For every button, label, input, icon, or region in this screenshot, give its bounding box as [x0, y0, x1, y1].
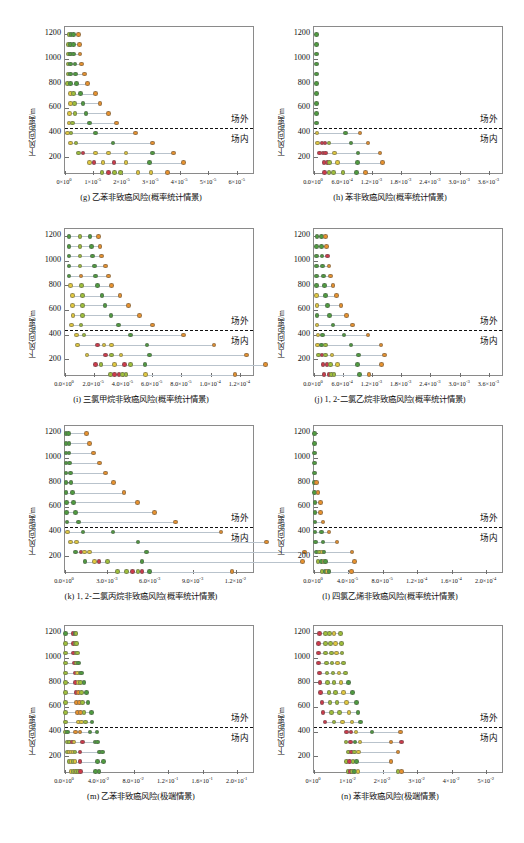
data-point-marker	[109, 313, 114, 318]
y-tick-label: 200	[32, 152, 61, 161]
zone-label-inside: 场内	[480, 132, 498, 144]
data-point-marker	[126, 303, 131, 308]
x-tick-mark	[237, 171, 238, 175]
data-point-marker	[114, 121, 119, 126]
data-point-marker	[349, 141, 354, 146]
y-tick-label: 1200	[32, 28, 61, 37]
data-point-marker	[316, 651, 321, 656]
data-point-marker	[332, 680, 337, 685]
data-row-connector	[67, 133, 135, 134]
data-point-marker	[341, 170, 346, 175]
y-tick-label: 200	[281, 152, 310, 161]
data-point-marker	[100, 750, 105, 755]
y-tick-mark	[314, 108, 318, 109]
data-point-marker	[354, 700, 359, 705]
site-boundary-line	[314, 527, 502, 528]
y-tick-label: 400	[32, 127, 61, 136]
x-tick-mark	[401, 373, 402, 377]
plot-area-g: 场外场内	[64, 26, 254, 174]
chart-panel-i: 下风向距离/m200400600800100012000.0×1002.0×10…	[28, 220, 262, 416]
y-tick-label: 400	[281, 726, 310, 735]
data-point-marker	[78, 234, 83, 239]
data-point-marker	[67, 264, 72, 269]
data-point-marker	[83, 720, 88, 725]
data-point-marker	[366, 333, 371, 338]
x-tick-mark	[460, 171, 461, 175]
data-point-marker	[82, 72, 87, 77]
data-point-marker	[314, 72, 319, 77]
y-tick-label: 1200	[281, 230, 310, 239]
data-point-marker	[88, 234, 93, 239]
plot-area-h: 场外场内	[313, 26, 503, 174]
data-point-marker	[325, 680, 330, 685]
data-row-connector	[316, 542, 337, 543]
data-point-marker	[370, 730, 375, 735]
y-tick-label: 200	[281, 551, 310, 560]
x-tick-mark	[486, 770, 487, 774]
data-point-marker	[212, 343, 217, 348]
y-tick-mark	[314, 658, 318, 659]
data-point-marker	[171, 151, 176, 156]
y-tick-label: 200	[32, 551, 61, 560]
site-boundary-line	[65, 727, 253, 728]
data-point-marker	[95, 740, 100, 745]
x-tick-mark	[417, 570, 418, 574]
data-point-marker	[67, 441, 72, 446]
data-point-marker	[314, 274, 319, 279]
data-point-marker	[128, 362, 133, 367]
data-point-marker	[323, 641, 328, 646]
data-point-marker	[313, 520, 318, 525]
data-point-marker	[358, 720, 363, 725]
x-tick-mark	[180, 171, 181, 175]
data-point-marker	[106, 170, 111, 175]
data-point-marker	[78, 730, 83, 735]
data-row-connector	[111, 375, 235, 376]
y-tick-mark	[65, 458, 69, 459]
data-point-marker	[335, 700, 340, 705]
x-tick-mark	[65, 570, 66, 574]
y-tick-label: 600	[32, 501, 61, 510]
data-point-marker	[315, 303, 320, 308]
data-point-marker	[74, 540, 79, 545]
data-point-marker	[116, 323, 121, 328]
data-point-marker	[93, 362, 98, 367]
data-point-marker	[327, 530, 332, 535]
data-point-marker	[82, 710, 87, 715]
data-point-marker	[353, 740, 358, 745]
data-point-marker	[78, 264, 83, 269]
data-point-marker	[354, 730, 359, 735]
y-tick-label: 1000	[281, 53, 310, 62]
data-row-connector	[67, 502, 138, 503]
y-tick-mark	[65, 310, 69, 311]
data-point-marker	[380, 160, 385, 165]
panel-caption-j: (j) 1, 2-二氯乙烷非致癌风险(概率统计情景)	[277, 392, 503, 404]
data-point-marker	[327, 264, 332, 269]
site-boundary-line	[314, 128, 502, 129]
data-row-connector	[70, 542, 266, 543]
data-point-marker	[328, 362, 333, 367]
data-point-marker	[111, 530, 116, 535]
data-point-marker	[81, 151, 86, 156]
x-tick-mark	[489, 373, 490, 377]
data-point-marker	[366, 141, 371, 146]
data-point-marker	[355, 160, 360, 165]
data-point-marker	[316, 661, 321, 666]
data-point-marker	[137, 313, 142, 318]
data-point-marker	[68, 62, 73, 67]
data-point-marker	[69, 323, 74, 328]
panel-caption-i: (i) 三氯甲烷非致癌风险(概率统计情景)	[28, 392, 254, 404]
data-point-marker	[85, 353, 90, 358]
data-point-marker	[327, 160, 332, 165]
data-point-marker	[349, 730, 354, 735]
data-point-marker	[73, 111, 78, 116]
data-point-marker	[89, 710, 94, 715]
data-point-marker	[329, 651, 334, 656]
data-point-marker	[103, 303, 108, 308]
y-tick-mark	[314, 507, 318, 508]
data-point-marker	[145, 343, 150, 348]
zone-label-inside: 场内	[231, 334, 249, 346]
y-tick-label: 600	[281, 304, 310, 313]
data-point-marker	[263, 362, 268, 367]
data-point-marker	[358, 740, 363, 745]
x-tick-mark	[430, 171, 431, 175]
